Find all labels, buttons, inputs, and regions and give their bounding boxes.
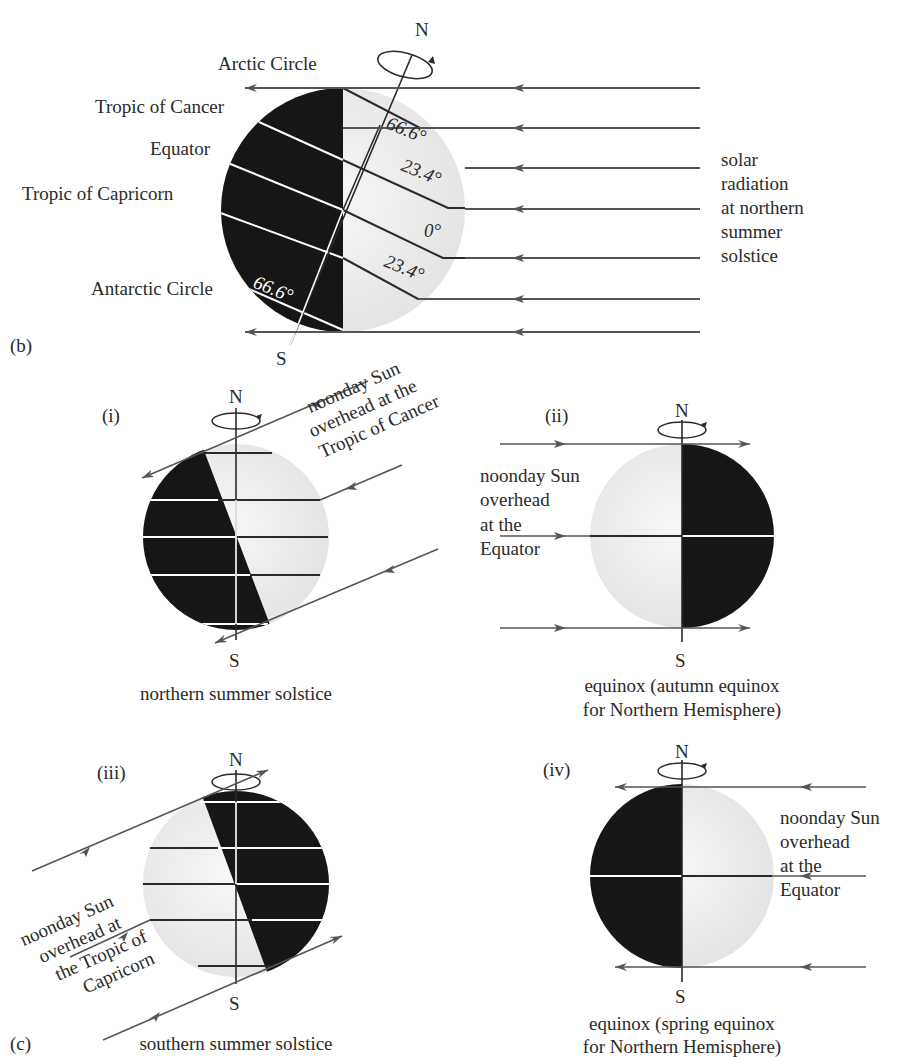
south-pole-label: S <box>675 650 686 671</box>
caption-ii-line2: for Northern Hemisphere) <box>583 699 781 721</box>
note-ii: noonday Sun overhead at the Equator <box>480 465 580 559</box>
south-pole-label: S <box>229 993 240 1014</box>
svg-text:Equator: Equator <box>780 879 841 900</box>
panel-b-globe <box>200 46 465 345</box>
panel-tag-c: (c) <box>10 1033 31 1055</box>
svg-text:noonday Sun: noonday Sun <box>780 807 880 828</box>
panel-i-globe <box>140 408 329 640</box>
label-antarctic-circle: Antarctic Circle <box>91 278 213 299</box>
panel-iv-globe <box>585 760 774 982</box>
svg-text:solstice: solstice <box>721 245 778 266</box>
north-pole-label: N <box>229 386 243 407</box>
night-side <box>200 80 343 340</box>
note-iv: noonday Sun overhead at the Equator <box>780 807 880 900</box>
svg-text:summer: summer <box>721 221 783 242</box>
label-arctic-circle: Arctic Circle <box>218 53 317 74</box>
seasons-diagram: N S Arctic Circle Tropic of Cancer Equat… <box>0 0 918 1057</box>
panel-tag-iv: (iv) <box>543 759 570 781</box>
caption-ii-line1: equinox (autumn equinox <box>584 675 780 697</box>
panel-tag-ii: (ii) <box>545 405 568 427</box>
svg-text:radiation: radiation <box>721 173 789 194</box>
label-equator: Equator <box>150 138 211 159</box>
panel-tag-i: (i) <box>102 405 120 427</box>
caption-i: northern summer solstice <box>140 683 332 704</box>
note-i: noonday Sun overhead at the Tropic of Ca… <box>296 348 443 462</box>
caption-iii: southern summer solstice <box>139 1033 332 1054</box>
south-pole-label: S <box>276 348 287 369</box>
north-pole-label: N <box>675 741 689 762</box>
panel-tag-iii: (iii) <box>97 762 126 784</box>
panel-tag-b: (b) <box>10 335 32 357</box>
caption-b: solar radiation at northern summer solst… <box>721 149 804 266</box>
angle-equator: 0° <box>424 220 442 241</box>
panel-iii-globe <box>143 770 340 984</box>
label-tropic-cancer: Tropic of Cancer <box>95 96 225 117</box>
svg-text:noonday Sun: noonday Sun <box>480 465 580 486</box>
south-pole-label: S <box>675 986 686 1007</box>
svg-text:at the: at the <box>780 855 822 876</box>
south-pole-label: S <box>229 650 240 671</box>
north-pole-label: N <box>415 19 429 40</box>
svg-text:solar: solar <box>721 149 759 170</box>
svg-text:at the: at the <box>480 514 522 535</box>
caption-iv-line1: equinox (spring equinox <box>589 1013 775 1035</box>
north-pole-label: N <box>675 400 689 421</box>
svg-text:overhead: overhead <box>480 489 550 510</box>
rotation-icon <box>375 46 435 84</box>
panel-ii-globe <box>590 420 782 642</box>
north-pole-label: N <box>229 749 243 770</box>
svg-text:Equator: Equator <box>480 538 541 559</box>
label-tropic-capricorn: Tropic of Capricorn <box>22 183 174 204</box>
svg-text:at northern: at northern <box>721 197 804 218</box>
caption-iv-line2: for Northern Hemisphere) <box>583 1036 781 1057</box>
svg-text:overhead: overhead <box>780 831 850 852</box>
